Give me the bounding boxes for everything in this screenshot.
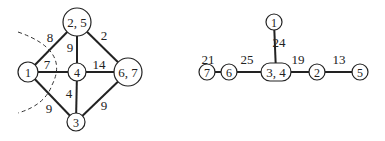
right-node: 7	[199, 64, 215, 80]
node-label: 3	[73, 116, 79, 130]
left-edge-weight: 4	[66, 86, 73, 101]
node-label: 6	[226, 66, 232, 80]
left-node: 4	[68, 63, 86, 81]
right-edge-weight: 25	[241, 52, 254, 67]
node-label: 1	[25, 66, 31, 80]
node-label: 6, 7	[118, 65, 138, 80]
right-edge-weight: 19	[292, 52, 305, 67]
node-label: 2	[314, 66, 320, 80]
left-node: 1	[18, 62, 38, 82]
left-edge-weight: 2	[101, 28, 108, 43]
left-node: 2, 5	[63, 8, 91, 36]
left-edge-weight: 9	[101, 98, 108, 113]
node-label: 5	[357, 66, 363, 80]
left-graph-nodes: 12, 546, 73	[18, 8, 142, 131]
node-label: 1	[271, 16, 277, 30]
left-edge-weight: 9	[46, 101, 53, 116]
right-node: 6	[221, 64, 237, 80]
node-label: 4	[74, 66, 80, 80]
left-node: 3	[67, 113, 85, 131]
right-node: 2	[309, 64, 325, 80]
node-label: 2, 5	[67, 15, 87, 30]
node-label: 3, 4	[266, 65, 286, 80]
left-edge-weight: 7	[44, 57, 51, 72]
left-edge-weight: 9	[67, 40, 74, 55]
right-node: 3, 4	[261, 63, 291, 81]
left-node: 6, 7	[114, 58, 142, 86]
right-node: 5	[352, 64, 368, 80]
graph-diagram: 892714499 12, 546, 73 2125191324 763, 42…	[0, 0, 385, 141]
left-edge-weight: 8	[47, 30, 54, 45]
node-label: 7	[204, 66, 210, 80]
right-edge-weight: 13	[333, 52, 346, 67]
right-edge-weight: 24	[273, 35, 287, 50]
right-node: 1	[266, 14, 282, 30]
left-edge-weight: 14	[93, 57, 107, 72]
